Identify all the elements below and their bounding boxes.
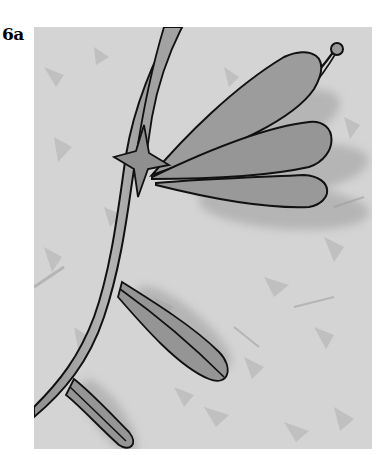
tendril-bud <box>331 43 343 55</box>
plant-illustration <box>34 27 372 449</box>
figure-label: 6a <box>2 24 24 44</box>
illustration-frame <box>34 27 372 449</box>
upper-leaf-3 <box>156 175 327 207</box>
